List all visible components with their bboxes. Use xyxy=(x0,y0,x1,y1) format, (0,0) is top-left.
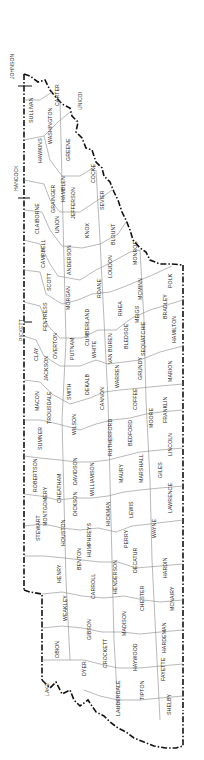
county-label-hawkins: HAWKINS xyxy=(38,138,43,163)
county-label-obion: OBION xyxy=(55,641,60,658)
county-label-moore: MOORE xyxy=(149,408,154,428)
county-label-clay: CLAY xyxy=(34,348,39,362)
county-label-polk: POLK xyxy=(168,274,173,288)
county-label-giles: GILES xyxy=(158,462,163,478)
county-label-lawrence: LAWRENCE xyxy=(168,483,173,513)
county-label-carter: CARTER xyxy=(55,84,60,106)
county-label-stewart: STEWART xyxy=(36,515,41,541)
county-label-sullivan: SULLIVAN xyxy=(29,97,34,123)
county-label-henry: HENRY xyxy=(57,564,62,583)
county-label-hardeman: HARDEMAN xyxy=(162,622,167,653)
county-label-campbell: CAMPBELL xyxy=(41,239,46,267)
county-label-hardin: HARDIN xyxy=(163,557,168,578)
county-label-jackson: JACKSON xyxy=(44,356,49,381)
border-label-pickett: PICKETT xyxy=(19,319,24,341)
county-label-knox: KNOX xyxy=(85,223,90,238)
county-label-warren: WARREN xyxy=(115,364,120,387)
county-label-monroe: MONROE xyxy=(133,241,138,265)
county-label-hamilton: HAMILTON xyxy=(172,316,177,343)
county-label-wilson: WILSON xyxy=(72,414,77,435)
county-label-madison: MADISON xyxy=(122,611,127,636)
county-label-humphreys: HUMPHREYS xyxy=(87,523,92,557)
county-label-davidson: DAVIDSON xyxy=(73,457,78,485)
county-label-haywood: HAYWOOD xyxy=(133,643,138,671)
county-label-morgan: MORGAN xyxy=(66,286,71,310)
county-label-cocke: COCKE xyxy=(91,164,96,183)
county-label-chester: CHESTER xyxy=(140,586,145,612)
county-label-hamblen: HAMBLEN xyxy=(61,176,66,202)
county-label-gibson: GIBSON xyxy=(87,619,92,640)
county-label-cumberland: CUMBERLAND xyxy=(85,309,90,346)
county-label-decatur: DECATUR xyxy=(133,548,138,573)
county-label-scott: SCOTT xyxy=(47,273,52,291)
county-label-roane: ROANE xyxy=(97,279,102,298)
county-label-crockett: CROCKETT xyxy=(103,638,108,667)
county-label-fayette: FAYETTE xyxy=(161,658,166,681)
county-label-henderson: HENDERSON xyxy=(113,560,118,594)
county-label-anderson: ANDERSON xyxy=(67,245,72,275)
county-label-shelby: SHELBY xyxy=(167,694,172,715)
county-label-jefferson: JEFFERSON xyxy=(71,188,76,220)
county-label-bledsoe: BLEDSOE xyxy=(124,324,129,349)
county-label-overton: OVERTON xyxy=(53,333,58,359)
county-label-rhea: RHEA xyxy=(118,302,123,317)
county-label-carroll: CARROLL xyxy=(91,574,96,599)
county-label-dyer: DYER xyxy=(82,662,87,677)
county-label-fentress: FENTRESS xyxy=(43,302,48,330)
county-label-marshall: MARSHALL xyxy=(139,454,144,483)
county-label-mcnairy: MCNAIRY xyxy=(170,587,175,612)
county-label-claiborne: CLAIBORNE xyxy=(35,204,40,235)
county-label-dickson: DICKSON xyxy=(73,492,78,516)
county-label-putnam: PUTNAM xyxy=(70,337,75,360)
county-label-mcminn: MCMINN xyxy=(138,278,143,300)
county-label-benton: BENTON xyxy=(77,547,82,569)
county-label-lincoln: LINCOLN xyxy=(168,433,173,456)
county-label-robertson: ROBERTSON xyxy=(33,459,38,493)
county-label-marion: MARION xyxy=(168,360,173,381)
county-label-lauderdale: LAUDERDALE xyxy=(116,680,121,716)
county-label-blount: BLOUNT xyxy=(111,223,116,245)
county-label-white: WHITE xyxy=(92,341,97,358)
border-label-lake: LAKE xyxy=(45,683,50,696)
county-label-macon: MACON xyxy=(35,391,40,411)
county-label-franklin: FRANKLIN xyxy=(163,396,168,422)
county-label-van-buren: VAN BUREN xyxy=(108,334,113,365)
county-label-trousdale: TROUSDALE xyxy=(47,392,52,425)
county-label-union: UNION xyxy=(55,216,60,233)
county-label-weakley: WEAKLEY xyxy=(63,595,68,621)
county-label-sequatchie: SEQUATCHIE xyxy=(141,322,146,356)
county-label-grundy: GRUNDY xyxy=(138,357,143,380)
county-label-cannon: CANNON xyxy=(100,387,105,410)
county-label-cheatham: CHEATHAM xyxy=(57,473,62,503)
county-label-greene: GREENE xyxy=(66,138,71,161)
county-label-sumner: SUMNER xyxy=(38,427,43,450)
county-label-lewis: LEWIS xyxy=(129,501,134,518)
county-label-loudon: LOUDON xyxy=(108,255,113,278)
border-label-johnson: JOHNSON xyxy=(10,54,15,79)
county-label-montgomery: MONTGOMERY xyxy=(43,487,48,526)
county-label-washington: WASHINGTON xyxy=(48,108,53,144)
county-label-bradley: BRADLEY xyxy=(163,294,168,319)
county-label-hickman: HICKMAN xyxy=(106,502,111,527)
border-label-hancock: HANCOCK xyxy=(14,165,19,191)
county-label-meigs: MEIGS xyxy=(135,306,140,323)
county-label-bedford: BEDFORD xyxy=(128,420,133,446)
county-label-coffee: COFFEE xyxy=(133,388,138,410)
county-label-rutherford: RUTHERFORD xyxy=(108,419,113,456)
county-label-wayne: WAYNE xyxy=(152,519,157,538)
county-label-maury: MAURY xyxy=(119,464,124,483)
county-label-williamson: WILLIAMSON xyxy=(90,462,95,496)
county-label-grainger: GRAINGER xyxy=(51,184,56,212)
county-label-tipton: TIPTON xyxy=(140,680,145,700)
county-label-perry: PERRY xyxy=(124,530,129,548)
county-label-sevier: SEVIER xyxy=(100,190,105,210)
county-label-houston: HOUSTON xyxy=(61,520,66,547)
county-label-dekalb: DEKALB xyxy=(85,374,90,395)
county-label-smith: SMITH xyxy=(67,383,72,400)
border-label-unicoi: UNICOI xyxy=(78,91,83,109)
